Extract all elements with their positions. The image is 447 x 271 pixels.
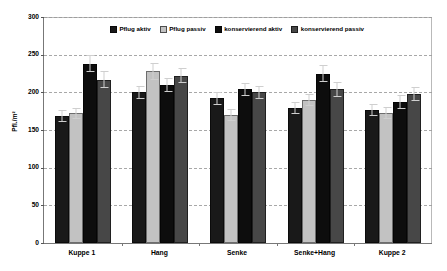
bar[interactable] — [365, 110, 379, 243]
bar-slot — [379, 17, 393, 243]
error-bar-cap — [150, 79, 158, 80]
error-bar-cap — [306, 94, 314, 95]
error-bar-cap — [150, 63, 158, 64]
bar[interactable] — [69, 113, 83, 243]
legend-label: konservierend aktiv — [224, 26, 282, 32]
bar-slot — [224, 17, 238, 243]
legend-label: konservierend passiv — [301, 26, 364, 32]
bar[interactable] — [288, 108, 302, 243]
bar-slot — [393, 17, 407, 243]
legend-item[interactable]: konservierend passiv — [291, 26, 364, 33]
bar-slot — [132, 17, 146, 243]
y-axis-tick-label: 0 — [17, 240, 39, 247]
error-bar — [103, 71, 104, 88]
bar[interactable] — [302, 100, 316, 243]
bar-groups — [44, 17, 432, 243]
bar-group — [277, 17, 355, 243]
bar-slot — [365, 17, 379, 243]
legend-label: Pflug passiv — [169, 26, 205, 32]
error-bar-cap — [383, 118, 391, 119]
legend-swatch-icon — [110, 26, 117, 33]
error-bar-cap — [397, 108, 405, 109]
bar-group — [199, 17, 277, 243]
error-bar-cap — [164, 78, 172, 79]
bar[interactable] — [132, 92, 146, 243]
error-bar — [153, 63, 154, 80]
y-axis-tick-label: 50 — [17, 202, 39, 209]
y-axis-tick-label: 200 — [17, 89, 39, 96]
bar[interactable] — [55, 116, 69, 243]
legend-item[interactable]: konservierend aktiv — [215, 26, 283, 33]
bar[interactable] — [316, 74, 330, 244]
x-axis-tick-label: Kuppe 2 — [353, 249, 431, 256]
error-bar-cap — [228, 120, 236, 121]
legend-item[interactable]: Pflug passiv — [160, 26, 206, 33]
chart-legend: Pflug aktivPflug passivkonservierend akt… — [43, 26, 431, 33]
error-bar — [308, 94, 309, 106]
y-axis-tick-label: 100 — [17, 164, 39, 171]
legend-label: Pflug aktiv — [119, 26, 150, 32]
bar[interactable] — [146, 71, 160, 243]
legend-swatch-icon — [160, 26, 167, 33]
legend-swatch-icon — [291, 26, 298, 33]
plot-area: 050100150200250300 — [43, 17, 432, 244]
bar[interactable] — [83, 64, 97, 243]
bar[interactable] — [379, 113, 393, 243]
error-bar-cap — [73, 108, 81, 109]
bar[interactable] — [210, 98, 224, 243]
error-bar-cap — [214, 104, 222, 105]
error-bar — [167, 78, 168, 92]
error-bar-cap — [411, 100, 419, 101]
bar-slot — [252, 17, 266, 243]
bar-slot — [210, 17, 224, 243]
bar-slot — [160, 17, 174, 243]
error-bar-cap — [59, 110, 67, 111]
error-bar — [230, 109, 231, 121]
bar-slot — [330, 17, 344, 243]
error-bar — [244, 83, 245, 97]
y-axis-tick-label: 250 — [17, 51, 39, 58]
bar-chart: Pfl./m² 050100150200250300 Kuppe 1HangSe… — [0, 0, 447, 271]
legend-swatch-icon — [215, 26, 222, 33]
error-bar-cap — [214, 92, 222, 93]
bar[interactable] — [160, 85, 174, 243]
error-bar-cap — [242, 83, 250, 84]
error-bar-cap — [242, 95, 250, 96]
error-bar-cap — [369, 104, 377, 105]
error-bar-cap — [59, 121, 67, 122]
bar[interactable] — [393, 102, 407, 243]
y-axis-title: Pfl./m² — [11, 92, 18, 152]
error-bar-cap — [292, 102, 300, 103]
bar[interactable] — [97, 80, 111, 243]
error-bar-cap — [411, 87, 419, 88]
bar[interactable] — [238, 89, 252, 243]
error-bar-cap — [178, 68, 186, 69]
error-bar — [322, 65, 323, 82]
error-bar-cap — [256, 98, 264, 99]
error-bar-cap — [136, 86, 144, 87]
bar[interactable] — [224, 115, 238, 243]
y-axis-tick-mark — [41, 243, 44, 244]
error-bar-cap — [87, 55, 95, 56]
x-axis-tick-label: Hang — [121, 249, 199, 256]
error-bar-cap — [320, 81, 328, 82]
y-axis-tick-label: 150 — [17, 127, 39, 134]
bar[interactable] — [330, 89, 344, 243]
legend-item[interactable]: Pflug aktiv — [110, 26, 151, 33]
bar-slot — [146, 17, 160, 243]
bar-slot — [288, 17, 302, 243]
error-bar — [75, 108, 76, 119]
error-bar-cap — [228, 109, 236, 110]
error-bar-cap — [87, 71, 95, 72]
error-bar — [258, 86, 259, 100]
error-bar-cap — [101, 87, 109, 88]
bar-slot — [316, 17, 330, 243]
bar[interactable] — [174, 76, 188, 243]
error-bar — [61, 110, 62, 122]
bar-group — [354, 17, 432, 243]
bar[interactable] — [407, 94, 421, 243]
error-bar-cap — [136, 98, 144, 99]
bar[interactable] — [252, 92, 266, 243]
error-bar-cap — [320, 65, 328, 66]
error-bar — [139, 86, 140, 100]
